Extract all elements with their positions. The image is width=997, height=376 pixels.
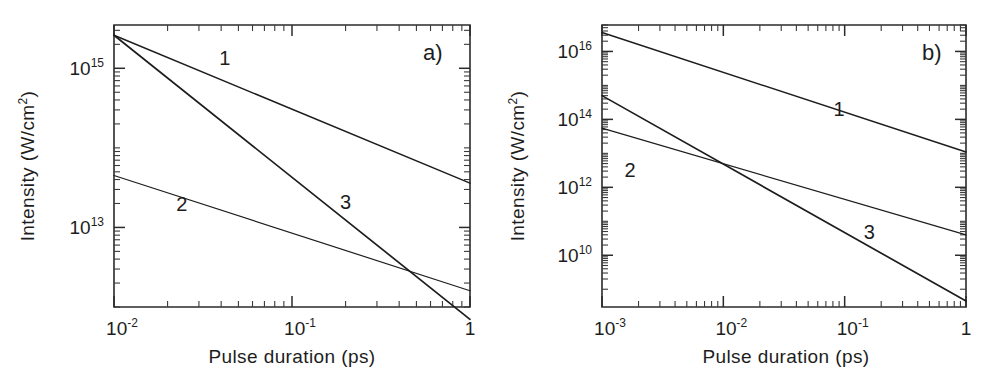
panel-b-x-tick-label: 1 bbox=[961, 318, 972, 339]
panel-b-y-tick-label: 1016 bbox=[558, 39, 593, 62]
tick-exponent: -2 bbox=[737, 316, 748, 330]
tick-mantissa: 10 bbox=[284, 318, 305, 339]
panel-b-curve-labels: 123 bbox=[624, 98, 875, 244]
panel-a-y-axis-title: Intensity (W/cm2) bbox=[16, 91, 38, 242]
tick-mantissa: 10 bbox=[70, 217, 91, 238]
tick-mantissa: 1 bbox=[961, 318, 972, 339]
chart-panel-a: 123 10151013 10-210-11 a) Pulse duration… bbox=[0, 0, 500, 376]
panel-a-svg: 123 10151013 10-210-11 a) Pulse duration… bbox=[0, 0, 500, 376]
panel-b-x-tick-label: 10-3 bbox=[594, 316, 626, 339]
panel-a-curves bbox=[114, 35, 470, 319]
panel-b-curve-label-1: 1 bbox=[834, 98, 845, 120]
panel-b-y-tick-label: 1012 bbox=[558, 175, 593, 198]
panel-b-curve-2 bbox=[602, 128, 966, 235]
panel-a-curve-1 bbox=[114, 35, 470, 183]
tick-exponent: -1 bbox=[305, 316, 316, 330]
panel-a-x-tick-label: 10-2 bbox=[106, 316, 138, 339]
panel-a-y-ticks bbox=[114, 30, 470, 307]
tick-exponent: 10 bbox=[579, 243, 593, 257]
tick-mantissa: 10 bbox=[594, 318, 615, 339]
tick-mantissa: 10 bbox=[70, 58, 91, 79]
tick-mantissa: 10 bbox=[558, 109, 579, 130]
panel-b-curve-1 bbox=[602, 33, 966, 152]
panel-b-x-tick-label: 10-1 bbox=[837, 316, 869, 339]
tick-exponent: -2 bbox=[127, 316, 138, 330]
panel-a-y-axis-title-post: ) bbox=[17, 91, 38, 98]
tick-mantissa: 10 bbox=[715, 318, 736, 339]
tick-exponent: 14 bbox=[579, 107, 593, 121]
panel-b-plot-area: 123 1016101410121010 10-310-210-11 bbox=[558, 25, 972, 339]
panel-b-curve-label-2: 2 bbox=[624, 159, 635, 181]
panel-b-axes-frame bbox=[602, 25, 966, 307]
tick-exponent: -1 bbox=[858, 316, 869, 330]
panel-a-y-tick-labels: 10151013 bbox=[70, 56, 105, 238]
tick-exponent: 13 bbox=[91, 215, 105, 229]
panel-a-y-axis-title-group: Intensity (W/cm2) bbox=[16, 91, 38, 242]
panel-a-curve-label-3: 3 bbox=[340, 191, 351, 213]
panel-b-x-tick-labels: 10-310-210-11 bbox=[594, 316, 971, 339]
panel-b-y-tick-labels: 1016101410121010 bbox=[558, 39, 593, 266]
panel-b-svg: 123 1016101410121010 10-310-210-11 b) Pu… bbox=[500, 0, 997, 376]
panel-a-curve-label-2: 2 bbox=[176, 193, 187, 215]
tick-exponent: -3 bbox=[615, 316, 626, 330]
panel-a-plot-area: 123 10151013 10-210-11 bbox=[70, 25, 476, 339]
panel-a-y-tick-label: 1015 bbox=[70, 56, 105, 79]
panel-b-y-axis-title: Intensity (W/cm2) bbox=[506, 91, 528, 242]
panel-b-y-axis-title-pre: Intensity (W/cm bbox=[507, 104, 528, 241]
tick-mantissa: 10 bbox=[558, 245, 579, 266]
tick-mantissa: 10 bbox=[558, 177, 579, 198]
panel-a-curve-2 bbox=[114, 175, 470, 290]
panel-a-y-axis-title-sup: 2 bbox=[16, 97, 30, 104]
panel-b-curves bbox=[602, 33, 966, 301]
panel-a-x-tick-label: 1 bbox=[465, 318, 476, 339]
panel-a-y-tick-label: 1013 bbox=[70, 215, 105, 238]
panel-b-y-tick-label: 1010 bbox=[558, 243, 593, 266]
panel-a-y-axis-title-pre: Intensity (W/cm bbox=[17, 104, 38, 241]
panel-b-y-axis-title-sup: 2 bbox=[506, 97, 520, 104]
panel-b-y-tick-label: 1014 bbox=[558, 107, 593, 130]
panel-b-curve-label-3: 3 bbox=[864, 221, 875, 243]
panel-b-letter: b) bbox=[922, 40, 942, 65]
panel-b-x-ticks bbox=[602, 25, 966, 307]
panel-b-y-axis-title-group: Intensity (W/cm2) bbox=[506, 91, 528, 242]
panel-a-x-tick-label: 10-1 bbox=[284, 316, 316, 339]
tick-exponent: 16 bbox=[579, 39, 593, 53]
panel-b-curve-3 bbox=[602, 96, 966, 301]
tick-exponent: 15 bbox=[91, 56, 105, 70]
figure-root: 123 10151013 10-210-11 a) Pulse duration… bbox=[0, 0, 997, 376]
tick-mantissa: 10 bbox=[837, 318, 858, 339]
tick-exponent: 12 bbox=[579, 175, 593, 189]
panel-a-letter: a) bbox=[423, 40, 443, 65]
panel-a-x-ticks bbox=[114, 25, 470, 307]
panel-b-y-ticks bbox=[602, 25, 966, 289]
chart-panel-b: 123 1016101410121010 10-310-210-11 b) Pu… bbox=[500, 0, 997, 376]
panel-a-axes-frame bbox=[114, 25, 470, 307]
panel-b-x-axis-title: Pulse duration (ps) bbox=[702, 346, 869, 367]
panel-b-y-axis-title-post: ) bbox=[507, 91, 528, 98]
tick-mantissa: 1 bbox=[465, 318, 476, 339]
panel-a-x-tick-labels: 10-210-11 bbox=[106, 316, 475, 339]
panel-a-curve-label-1: 1 bbox=[219, 47, 230, 69]
panel-a-curve-3 bbox=[114, 35, 470, 319]
tick-mantissa: 10 bbox=[106, 318, 127, 339]
panel-b-x-tick-label: 10-2 bbox=[715, 316, 747, 339]
panel-a-x-axis-title: Pulse duration (ps) bbox=[208, 346, 375, 367]
tick-mantissa: 10 bbox=[558, 41, 579, 62]
